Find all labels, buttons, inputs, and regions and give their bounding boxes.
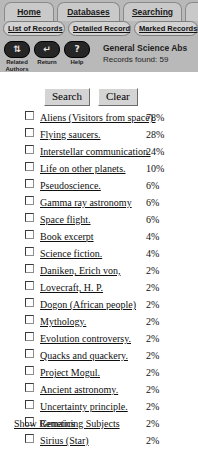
subtab-marked-records-label: Marked Records: [139, 24, 197, 33]
subject-row: Interstellar communication.24%: [0, 146, 198, 163]
subject-row: Aliens (Visitors from space).78%: [0, 112, 198, 129]
subtab-detailed-record[interactable]: Detailed Record: [68, 21, 131, 36]
subject-checkbox[interactable]: [25, 264, 34, 273]
show-remaining-subjects-link[interactable]: Show Remaining Subjects: [14, 418, 120, 429]
subject-percent: 24%: [146, 146, 164, 158]
subject-row: Space flight.6%: [0, 214, 198, 231]
subject-link[interactable]: Pseudoscience.: [40, 180, 101, 192]
subject-checkbox[interactable]: [25, 111, 34, 120]
subject-checkbox[interactable]: [25, 315, 34, 324]
subject-checkbox[interactable]: [25, 400, 34, 409]
subject-percent: 28%: [146, 129, 164, 141]
subject-percent: 2%: [146, 401, 159, 413]
tab-databases[interactable]: Databases: [57, 2, 120, 21]
subject-checkbox[interactable]: [25, 349, 34, 358]
return-arrow-icon[interactable]: ↵: [34, 41, 60, 58]
subject-row: Book excerpt4%: [0, 231, 198, 248]
subject-row: Evolution controversy.2%: [0, 333, 198, 350]
subject-checkbox[interactable]: [25, 366, 34, 375]
subject-link[interactable]: Sirius (Star): [40, 435, 89, 447]
subject-percent: 2%: [146, 384, 159, 396]
subject-row: Quacks and quackery.2%: [0, 350, 198, 367]
subject-link[interactable]: Book excerpt: [40, 231, 94, 243]
toolbar-help[interactable]: ? Help: [64, 41, 90, 72]
subtab-list-of-records-label: List of Records: [8, 24, 63, 33]
subject-checkbox[interactable]: [25, 128, 34, 137]
subject-checkbox[interactable]: [25, 281, 34, 290]
search-button[interactable]: Search: [44, 88, 90, 106]
subject-checkbox[interactable]: [25, 145, 34, 154]
subject-link[interactable]: Project Mogul.: [40, 367, 100, 379]
subject-percent: 2%: [146, 265, 159, 277]
subject-row: Gamma ray astronomy6%: [0, 197, 198, 214]
tab-home-label: Home: [17, 7, 41, 17]
subject-row: Flying saucers.28%: [0, 129, 198, 146]
subject-percent: 2%: [146, 316, 159, 328]
subject-percent: 6%: [146, 180, 159, 192]
records-found-count: Records found: 59: [103, 54, 187, 65]
subject-link[interactable]: Ancient astronomy.: [40, 384, 118, 396]
related-authors-icon[interactable]: ⇅: [4, 41, 30, 58]
subject-row: Lovecraft, H. P.2%: [0, 282, 198, 299]
subject-link[interactable]: Space flight.: [40, 214, 91, 226]
subject-link[interactable]: Flying saucers.: [40, 129, 101, 141]
subject-link[interactable]: Life on other planets.: [40, 163, 126, 175]
toolbar-return[interactable]: ↵ Return: [34, 41, 60, 72]
subject-percent: 6%: [146, 214, 159, 226]
subject-link[interactable]: Interstellar communication.: [40, 146, 151, 158]
subtab-marked-records[interactable]: Marked Records: [134, 21, 198, 36]
subject-link[interactable]: Lovecraft, H. P.: [40, 282, 103, 294]
tab-searching-label: Searching: [132, 7, 173, 17]
subject-link[interactable]: Evolution controversy.: [40, 333, 131, 345]
subject-percent: 6%: [146, 197, 159, 209]
subject-checkbox[interactable]: [25, 332, 34, 341]
subject-checkbox[interactable]: [25, 298, 34, 307]
icon-toolbar: ⇅ Related Authors ↵ Return ? Help: [4, 41, 90, 72]
subject-link[interactable]: Science fiction.: [40, 248, 102, 260]
subject-percent: 2%: [146, 418, 159, 430]
question-mark-icon[interactable]: ?: [64, 41, 90, 58]
subject-checkbox[interactable]: [25, 434, 34, 443]
subject-link[interactable]: Daniken, Erich von,: [40, 265, 121, 277]
subject-row: Daniken, Erich von,2%: [0, 265, 198, 282]
subject-percent: 2%: [146, 282, 159, 294]
subject-link[interactable]: Gamma ray astronomy: [40, 197, 132, 209]
subject-row: Mythology.2%: [0, 316, 198, 333]
subject-link[interactable]: Mythology.: [40, 316, 86, 328]
related-authors-glyph: ⇅: [5, 42, 29, 57]
subject-percent: 2%: [146, 299, 159, 311]
primary-tab-bar: Home Databases Searching: [0, 2, 198, 21]
subject-row: Ancient astronomy.2%: [0, 384, 198, 401]
toolbar-related-authors-label: Related Authors: [4, 59, 30, 72]
subject-link[interactable]: Dogon (African people): [40, 299, 136, 311]
tab-databases-label: Databases: [67, 7, 110, 17]
toolbar-return-label: Return: [34, 59, 60, 66]
subject-checkbox[interactable]: [25, 383, 34, 392]
subject-checkbox[interactable]: [25, 162, 34, 171]
subject-row: Life on other planets.10%: [0, 163, 198, 180]
subject-checkbox[interactable]: [25, 179, 34, 188]
subtab-detailed-record-label: Detailed Record: [73, 24, 130, 33]
clear-button[interactable]: Clear: [98, 88, 138, 106]
subtab-list-of-records[interactable]: List of Records: [3, 21, 65, 36]
subject-link[interactable]: Uncertainty principle.: [40, 401, 128, 413]
subject-link[interactable]: Aliens (Visitors from space).: [40, 112, 155, 124]
subject-row: Science fiction.4%: [0, 248, 198, 265]
toolbar-help-label: Help: [64, 59, 90, 66]
tab-home[interactable]: Home: [4, 2, 54, 21]
subject-checkbox[interactable]: [25, 230, 34, 239]
subject-percent: 4%: [146, 248, 159, 260]
subject-percent: 2%: [146, 350, 159, 362]
subject-percent: 2%: [146, 435, 159, 447]
subject-link[interactable]: Quacks and quackery.: [40, 350, 128, 362]
tab-searching[interactable]: Searching: [123, 2, 182, 21]
tab-overflow[interactable]: [185, 2, 198, 21]
subject-checkbox[interactable]: [25, 213, 34, 222]
toolbar-related-authors[interactable]: ⇅ Related Authors: [4, 41, 30, 72]
subject-percent: 2%: [146, 367, 159, 379]
subject-row: Pseudoscience.6%: [0, 180, 198, 197]
subject-list: Aliens (Visitors from space).78%Flying s…: [0, 112, 198, 451]
subject-percent: 4%: [146, 231, 159, 243]
subject-checkbox[interactable]: [25, 247, 34, 256]
subject-checkbox[interactable]: [25, 196, 34, 205]
